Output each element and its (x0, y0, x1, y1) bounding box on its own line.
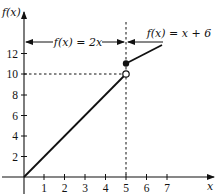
annotation-piece1: f(x) = 2x (26, 36, 124, 49)
svg-text:2: 2 (12, 151, 18, 163)
open-endpoint (123, 71, 129, 77)
svg-text:f(x) = x + 6: f(x) = x + 6 (146, 27, 211, 40)
y-axis-label: f(x) (1, 6, 21, 19)
x-tick-labels: 1 2 3 4 5 6 7 (41, 182, 170, 194)
svg-text:7: 7 (164, 182, 170, 194)
y-tick-labels: 2 4 6 8 10 12 (7, 48, 19, 163)
closed-endpoint (123, 60, 129, 66)
piecewise-function-chart: 1 2 3 4 5 6 7 2 4 6 8 10 12 f(x) x f(x) … (0, 0, 217, 196)
svg-text:f(x) = 2x: f(x) = 2x (53, 36, 103, 49)
svg-text:4: 4 (12, 130, 18, 142)
svg-text:5: 5 (123, 182, 129, 194)
svg-text:1: 1 (41, 182, 47, 194)
svg-text:12: 12 (7, 48, 19, 60)
svg-text:8: 8 (12, 89, 18, 101)
svg-text:3: 3 (82, 182, 88, 194)
x-axis-label: x (207, 180, 214, 193)
line-piece-2x (24, 77, 124, 178)
line-piece-x-plus-6 (126, 45, 162, 64)
annotation-piece2: f(x) = x + 6 (128, 27, 211, 42)
svg-text:2: 2 (62, 182, 68, 194)
svg-text:10: 10 (7, 68, 19, 80)
svg-text:6: 6 (12, 110, 18, 122)
svg-text:4: 4 (103, 182, 109, 194)
svg-text:6: 6 (144, 182, 150, 194)
